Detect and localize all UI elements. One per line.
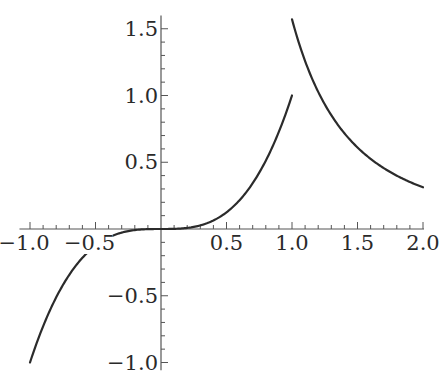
curves — [30, 19, 423, 362]
x-tick-label: 1.0 — [275, 231, 308, 255]
x-tick-label: 1.5 — [341, 231, 374, 255]
function-plot: −1.0−0.50.51.01.52.0−1.0−0.50.51.01.5 — [0, 0, 443, 376]
curve-segment-2 — [292, 19, 423, 187]
x-tick-label: −1.0 — [0, 231, 50, 255]
axes — [19, 15, 424, 370]
y-tick-label: 1.5 — [125, 17, 158, 41]
y-tick-label: −1.0 — [107, 351, 158, 375]
y-tick-label: 0.5 — [125, 150, 158, 174]
x-tick-label: −0.5 — [64, 231, 115, 255]
y-tick-label: 1.0 — [125, 84, 158, 108]
y-tick-label: −0.5 — [107, 284, 158, 308]
x-tick-label: 2.0 — [406, 231, 439, 255]
tick-labels: −1.0−0.50.51.01.52.0−1.0−0.50.51.01.5 — [0, 17, 440, 375]
x-tick-label: 0.5 — [210, 231, 243, 255]
